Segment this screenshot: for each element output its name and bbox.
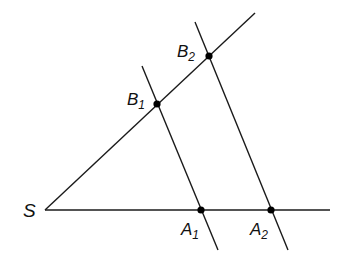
label-s: S — [23, 201, 36, 220]
point-b1 — [153, 100, 160, 107]
label-a1: A1 — [181, 221, 199, 241]
point-a1 — [197, 206, 204, 213]
diagram-canvas — [0, 0, 354, 270]
label-a2: A2 — [250, 221, 268, 241]
parallel-line-1 — [142, 66, 218, 250]
point-a2 — [267, 206, 274, 213]
label-b2: B2 — [177, 43, 195, 63]
ray-diagonal — [45, 13, 255, 210]
label-b1: B1 — [127, 91, 145, 111]
point-b2 — [205, 52, 212, 59]
